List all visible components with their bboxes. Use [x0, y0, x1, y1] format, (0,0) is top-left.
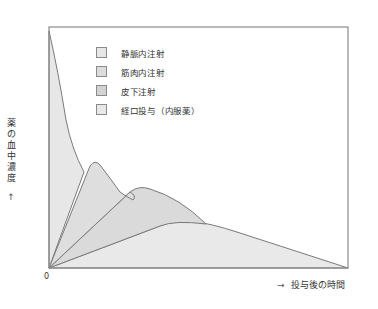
legend-swatch [96, 66, 107, 77]
legend-item-im: 筋肉内注射 [96, 63, 199, 80]
legend: 静脈内注射 筋肉内注射 皮下注射 経口投与（内服薬） [96, 44, 199, 120]
legend-label: 皮下注射 [121, 85, 156, 97]
x-axis-label: →投与後の時間 [277, 278, 345, 291]
right-arrow-icon: → [277, 280, 285, 290]
legend-label: 静脈内注射 [121, 47, 165, 59]
legend-label: 経口投与（内服薬） [121, 104, 199, 116]
y-label-char: 血 [5, 140, 17, 151]
up-arrow-icon: ↑ [5, 192, 17, 202]
legend-swatch [96, 85, 107, 96]
legend-label: 筋肉内注射 [121, 66, 165, 78]
x-axis-label-text: 投与後の時間 [291, 280, 345, 290]
y-axis-label: 薬 の 血 中 濃 度 [5, 118, 17, 184]
legend-swatch [96, 47, 107, 58]
legend-item-iv: 静脈内注射 [96, 44, 199, 61]
y-label-char: 度 [5, 173, 17, 184]
legend-swatch [96, 104, 107, 115]
legend-item-oral: 経口投与（内服薬） [96, 101, 199, 118]
y-label-char: 中 [5, 151, 17, 162]
origin-label: 0 [44, 272, 49, 281]
y-label-char: の [5, 129, 17, 140]
legend-item-sc: 皮下注射 [96, 82, 199, 99]
y-label-char: 薬 [5, 118, 17, 129]
y-label-char: 濃 [5, 162, 17, 173]
